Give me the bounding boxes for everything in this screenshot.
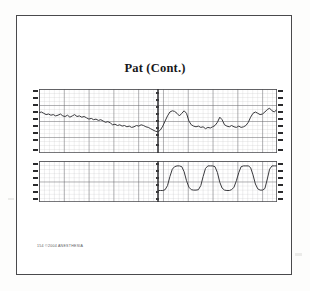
scan-speckle <box>8 198 14 200</box>
lower-chart-right-axis <box>278 161 283 202</box>
lower-chart-panel <box>39 161 277 202</box>
figure-title: Pat (Cont.) <box>17 61 293 76</box>
footer-credit: 154 ©2004 ANESTHESIA <box>37 244 83 248</box>
scanned-page: Pat (Cont.) <box>0 0 310 291</box>
upper-chart-panel <box>39 89 277 153</box>
lower-chart-left-axis <box>33 161 38 202</box>
lower-chart-mid-axis <box>156 161 161 202</box>
upper-chart-mid-axis <box>156 89 161 153</box>
upper-chart-right-axis <box>278 89 283 153</box>
scan-speckle <box>295 253 302 256</box>
page-frame: Pat (Cont.) <box>16 15 292 275</box>
upper-chart-left-axis <box>33 89 38 153</box>
